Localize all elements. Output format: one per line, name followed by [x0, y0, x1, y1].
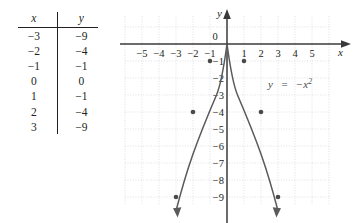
column-header-x: x	[18, 12, 57, 28]
x-axis	[120, 40, 351, 48]
y-axis-label: y	[216, 7, 222, 19]
value-table: x y −3 −9 −2 −4 −1 −1 0	[18, 12, 98, 134]
table-row: −2 −4	[18, 43, 98, 58]
column-header-y: y	[57, 12, 98, 28]
cell-y: 0	[57, 74, 98, 89]
table-row: 3 −9	[18, 119, 98, 134]
equation-rhs-base: −x	[296, 78, 308, 90]
table-row: −1 −1	[18, 58, 98, 73]
cell-y: −4	[57, 43, 98, 58]
data-point	[276, 195, 281, 200]
cell-y: −1	[57, 89, 98, 104]
equation-lhs: y	[267, 78, 273, 90]
y-axis	[223, 9, 231, 223]
cell-x: 3	[18, 119, 57, 134]
data-point	[191, 110, 196, 115]
y-tick-label: −4	[213, 107, 225, 118]
table-header: x y	[18, 12, 98, 28]
cell-x: −1	[18, 58, 57, 73]
y-tick-label: −5	[213, 124, 224, 135]
y-tick-label: −7	[213, 158, 224, 169]
cell-x: 1	[18, 89, 57, 104]
x-tick-label: 3	[275, 48, 280, 59]
origin-label: 0	[212, 31, 217, 42]
table-row: −3 −9	[18, 28, 98, 44]
x-axis-label: x	[337, 46, 343, 58]
parabola-graph: x y 0 −5 −4 −3 −2 −1 1 2 3 4 5 −1 −2 −3 …	[120, 0, 358, 223]
equation-equals: =	[281, 78, 288, 90]
x-tick-label: −2	[187, 48, 198, 59]
x-tick-label: 2	[258, 48, 263, 59]
y-tick-label: −1	[213, 56, 224, 67]
x-tick-label: −3	[170, 48, 181, 59]
x-tick-label: 1	[241, 48, 246, 59]
cell-y: −9	[57, 28, 98, 44]
y-tick-label: −9	[213, 192, 224, 203]
x-tick-label: −5	[136, 48, 147, 59]
cell-y: −9	[57, 119, 98, 134]
table-row: 0 0	[18, 74, 98, 89]
cell-y: −4	[57, 104, 98, 119]
x-tick-label: 4	[292, 48, 298, 59]
figure-root: x y −3 −9 −2 −4 −1 −1 0	[0, 0, 358, 223]
svg-text:y = −x2: y = −x2	[267, 77, 312, 90]
x-tick-label: −4	[153, 48, 165, 59]
equation-annotation: y = −x2	[267, 77, 312, 90]
x-tick-label: 5	[309, 48, 314, 59]
cell-x: −2	[18, 43, 57, 58]
y-tick-label: −8	[213, 175, 224, 186]
equation-rhs-exponent: 2	[308, 77, 312, 86]
table-header-row: x y	[18, 12, 98, 28]
data-point	[259, 110, 264, 115]
data-point	[174, 195, 179, 200]
cell-x: 2	[18, 104, 57, 119]
table-row: 2 −4	[18, 104, 98, 119]
cell-y: −1	[57, 58, 98, 73]
xy-table: x y −3 −9 −2 −4 −1 −1 0	[18, 12, 98, 134]
cell-x: −3	[18, 28, 57, 44]
y-tick-label: −6	[213, 141, 224, 152]
data-point	[208, 59, 213, 64]
cell-x: 0	[18, 74, 57, 89]
data-point	[242, 59, 247, 64]
table-body: −3 −9 −2 −4 −1 −1 0 0 1 −1	[18, 28, 98, 135]
table-row: 1 −1	[18, 89, 98, 104]
